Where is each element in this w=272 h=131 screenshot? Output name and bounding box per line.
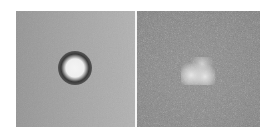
bright-cluster (181, 57, 215, 85)
right-image-panel: Grayscale noisy image: faint irregular b… (137, 11, 260, 127)
left-image-panel: Grayscale image: bright circular spot wi… (16, 11, 135, 127)
bright-spot-with-dark-ring (58, 51, 92, 85)
